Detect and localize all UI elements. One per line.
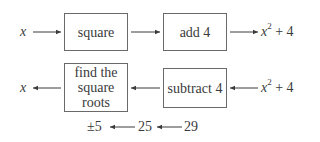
top-input-x: x [20,24,26,40]
top-output-rest: + 4 [272,24,294,39]
middle-input-rest: + 4 [272,80,294,95]
top-output-exponent: 2 [267,21,272,31]
add4-box: add 4 [163,13,227,51]
middle-output-x: x [20,80,26,96]
value-29: 29 [184,119,198,135]
subtract4-box: subtract 4 [163,68,227,108]
subtract4-box-label: subtract 4 [168,81,223,96]
roots-box-line2: square [78,80,115,95]
roots-box-line1: find the [74,65,117,80]
square-box: square [64,13,128,51]
result-pm5: ±5 [87,119,102,135]
top-output-expression: x2 + 4 [261,24,294,40]
add4-box-label: add 4 [180,25,211,40]
square-box-label: square [78,25,115,40]
middle-input-expression: x2 + 4 [261,80,294,96]
middle-input-exponent: 2 [267,77,272,87]
roots-box-line3: roots [82,95,110,110]
value-25: 25 [138,119,152,135]
find-square-roots-box: find the square roots [64,63,128,112]
